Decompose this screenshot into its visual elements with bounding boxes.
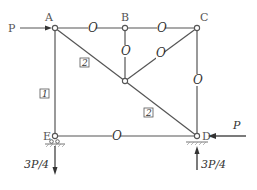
label-ae-force: 1 bbox=[42, 89, 48, 99]
arrowhead-icon bbox=[195, 146, 200, 154]
joint-a bbox=[52, 25, 57, 30]
joint-center bbox=[122, 78, 127, 83]
load-label-a: P bbox=[8, 22, 16, 35]
joint-e bbox=[52, 133, 57, 138]
joint-c bbox=[194, 25, 199, 30]
joint-b bbox=[122, 25, 127, 30]
label-c-center-zero: O bbox=[156, 46, 166, 60]
pin-support-d bbox=[186, 142, 208, 145]
label-ab-zero: O bbox=[88, 21, 98, 35]
label-a-center-force: 2 bbox=[81, 58, 88, 68]
arrowhead-icon bbox=[53, 167, 58, 175]
label-center-d-force: 2 bbox=[145, 108, 152, 118]
node-label-a: A bbox=[44, 11, 54, 24]
node-label-c: C bbox=[200, 11, 208, 24]
member-a-center bbox=[55, 28, 125, 81]
label-cd-zero: O bbox=[193, 73, 203, 87]
node-label-b: B bbox=[121, 11, 129, 24]
arrowhead-icon bbox=[45, 26, 52, 31]
label-bc-zero: O bbox=[157, 21, 167, 35]
member-center-d bbox=[125, 81, 197, 136]
load-label-d: P bbox=[232, 119, 241, 132]
label-ed-zero: O bbox=[112, 129, 122, 143]
reaction-label-e: 3P/4 bbox=[24, 158, 49, 171]
truss-diagram: O O O O O O 2 2 1 A B C E D P P bbox=[0, 0, 257, 190]
reaction-label-d: 3P/4 bbox=[201, 158, 226, 171]
joint-d bbox=[194, 133, 199, 138]
label-b-center-zero: O bbox=[121, 44, 131, 58]
